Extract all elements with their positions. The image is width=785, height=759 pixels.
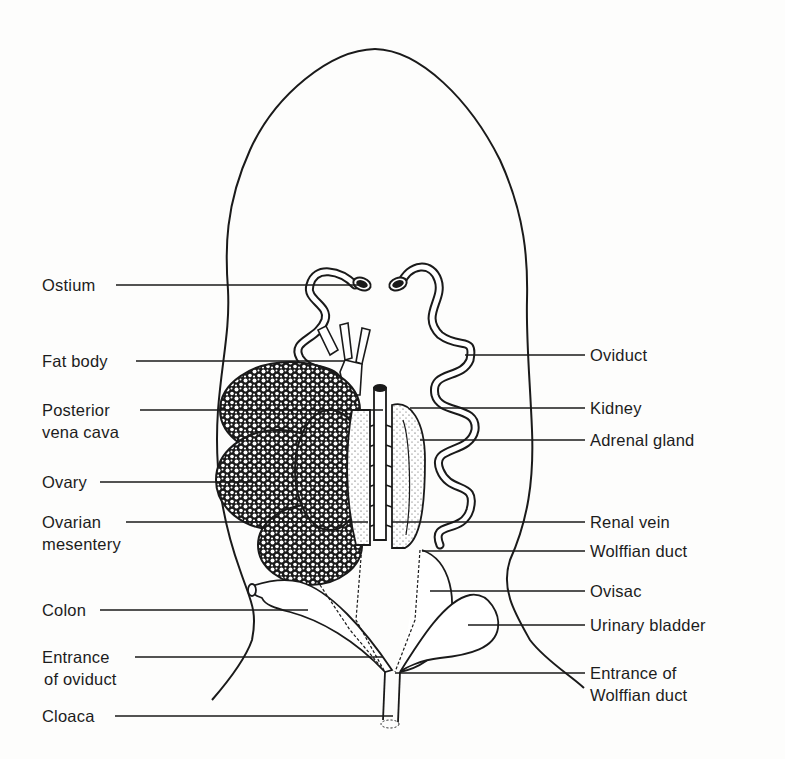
frog-urogenital-illustration: [0, 0, 785, 759]
colon: [248, 580, 392, 672]
label-entrance-of-wolffian-duct-line1: Entrance of: [590, 662, 677, 684]
label-cloaca: Cloaca: [42, 705, 95, 727]
label-ovary: Ovary: [42, 471, 87, 493]
ovary: [216, 362, 365, 585]
label-ovisac: Ovisac: [590, 580, 642, 602]
label-fat-body: Fat body: [42, 350, 108, 372]
label-oviduct: Oviduct: [590, 344, 647, 366]
cloaca: [381, 672, 400, 728]
label-ostium: Ostium: [42, 274, 95, 296]
label-entrance-of-oviduct-line1: Entrance: [42, 646, 110, 668]
label-ovarian-mesentery-line2: mesentery: [42, 533, 121, 555]
ostium-openings: [351, 275, 408, 292]
diagram-canvas: Ostium Fat body Posterior vena cava Ovar…: [0, 0, 785, 759]
label-renal-vein: Renal vein: [590, 511, 670, 533]
label-entrance-of-oviduct-line2: of oviduct: [44, 668, 117, 690]
posterior-vena-cava: [374, 385, 386, 540]
label-posterior-vena-cava-line2: vena cava: [42, 421, 119, 443]
label-ovarian-mesentery-line1: Ovarian: [42, 511, 101, 533]
label-kidney: Kidney: [590, 397, 642, 419]
label-entrance-of-wolffian-duct-line2: Wolffian duct: [590, 684, 687, 706]
label-posterior-vena-cava-line1: Posterior: [42, 399, 110, 421]
label-urinary-bladder: Urinary bladder: [590, 614, 706, 636]
label-colon: Colon: [42, 599, 86, 621]
label-wolffian-duct: Wolffian duct: [590, 540, 687, 562]
label-adrenal-gland: Adrenal gland: [590, 429, 694, 451]
